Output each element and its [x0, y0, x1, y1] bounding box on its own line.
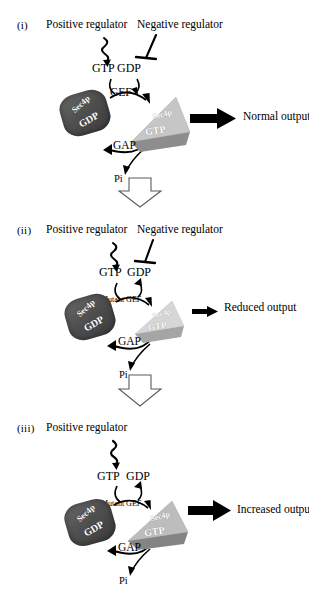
gef-main-arrowhead-icon: [145, 297, 152, 307]
pi-label: Pi: [114, 173, 123, 184]
gef-curve-right-icon: [135, 79, 139, 93]
sec4p-gtp-nucleotide-label: GTP: [143, 524, 165, 538]
positive-regulator-squiggle-icon: [111, 441, 117, 465]
gef-curve-right-arrowhead-icon: [131, 87, 138, 95]
gef-curve-right-icon: [138, 486, 142, 500]
pi-label: Pi: [119, 575, 128, 586]
gef-label: GEF: [110, 86, 132, 98]
panel-label-roman: (i): [17, 19, 28, 31]
pi-release-arrowhead-icon: [123, 165, 130, 175]
output-label: Increased output: [237, 503, 309, 515]
sec4p-gtp-protein-label: Sec4p: [151, 108, 173, 122]
gtp-label: GTP: [99, 265, 122, 280]
pi-release-curve-icon: [131, 344, 150, 368]
positive-regulator-label: Positive regulator: [46, 223, 127, 235]
panel-label-roman: (iii): [17, 422, 35, 434]
sec4p-gtp-nucleotide-label: GTP: [144, 123, 166, 137]
gdp-label: GDP: [126, 469, 150, 484]
pi-release-arrowhead-icon: [128, 566, 135, 576]
gtp-label: GTP: [97, 469, 120, 484]
positive-regulator-squiggle-icon: [111, 243, 117, 267]
negative-regulator-line-icon: [145, 240, 153, 262]
panel-1-graphics: [0, 0, 309, 200]
sec4p-gtp-protein-label: Sec4p: [151, 307, 171, 320]
sec4p-gtp-protein-label: Sec4p: [149, 510, 171, 524]
pi-label: Pi: [119, 369, 128, 380]
negative-regulator-label: Negative regulator: [137, 18, 223, 30]
panel-reduced-output: (ii) Positive regulator Negative regulat…: [0, 196, 309, 392]
sec4p-gtp-shape: [0, 0, 309, 200]
pi-release-arrowhead-icon: [128, 361, 135, 371]
output-label: Normal output: [243, 110, 309, 122]
gap-label: GAP: [113, 139, 136, 151]
gef-main-arrowhead-icon: [144, 500, 151, 510]
output-arrow-icon: [188, 500, 231, 521]
negative-regulator-tbar-icon: [136, 57, 156, 59]
negative-regulator-line-icon: [146, 35, 156, 58]
negative-regulator-tbar-icon: [135, 261, 155, 263]
sec4p-gtp-nucleotide-label: GTP: [147, 320, 167, 333]
positive-regulator-label: Positive regulator: [46, 18, 127, 30]
positive-regulator-label: Positive regulator: [46, 421, 127, 433]
gap-arrowhead-icon: [107, 340, 116, 351]
output-arrow-icon: [192, 306, 218, 317]
panel-increased-output: (iii) Positive regulator GTP GDP Mutant …: [0, 392, 309, 590]
output-arrow-icon: [190, 108, 236, 129]
gap-arrowhead-icon: [107, 545, 116, 556]
positive-regulator-squiggle-icon: [102, 38, 108, 62]
gtp-label: GTP: [92, 61, 115, 76]
panel-normal-output: (i) Positive regulator Negative regulato…: [0, 0, 309, 196]
gap-arrowhead-icon: [103, 144, 112, 155]
gdp-label: GDP: [127, 265, 151, 280]
gdp-label: GDP: [117, 61, 141, 76]
negative-regulator-label: Negative regulator: [137, 223, 223, 235]
gap-label: GAP: [118, 541, 141, 553]
gef-main-arrowhead-icon: [142, 93, 150, 104]
output-label: Reduced output: [224, 301, 297, 313]
pi-release-curve-icon: [126, 148, 145, 172]
panel-label-roman: (ii): [17, 224, 31, 236]
gap-label: GAP: [118, 335, 141, 347]
